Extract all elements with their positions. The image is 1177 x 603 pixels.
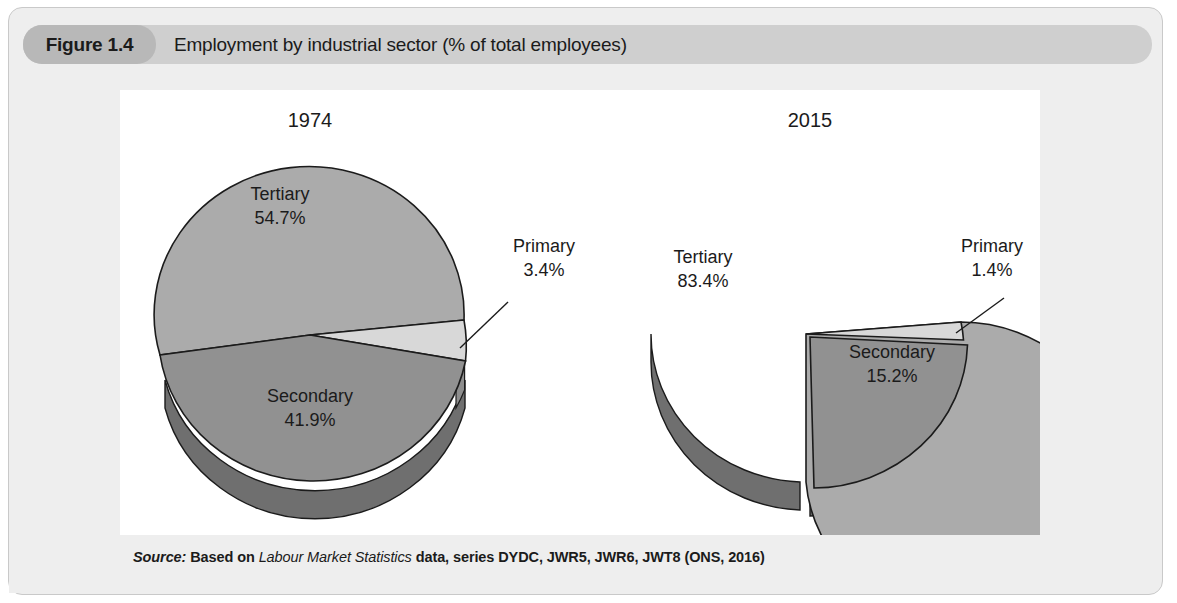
pie-1974-primary-name: Primary <box>513 236 575 256</box>
chart-plot-panel: 1974 Tertiary 54.7% Secondary 41.9% <box>120 90 1040 535</box>
source-italic-title: Labour Market Statistics <box>259 549 412 565</box>
pie-2015-tertiary-name: Tertiary <box>673 247 732 267</box>
figure-caption-bar: Figure 1.4 Employment by industrial sect… <box>23 25 1152 64</box>
pie-title-2015: 2015 <box>788 109 833 131</box>
pie-2015-primary-value: 1.4% <box>971 260 1012 280</box>
pie-1974-primary-leader-line <box>460 302 508 348</box>
pie-1974-tertiary-name: Tertiary <box>250 184 309 204</box>
figure-caption-text: Employment by industrial sector (% of to… <box>174 25 627 64</box>
pie-1974-secondary-value: 41.9% <box>284 410 335 430</box>
pie-1974-primary-value: 3.4% <box>523 260 564 280</box>
source-text-1: Based on <box>186 549 258 565</box>
figure-number-tag: Figure 1.4 <box>23 25 156 64</box>
pie-1974-secondary-name: Secondary <box>267 386 353 406</box>
pie-charts-svg: 1974 Tertiary 54.7% Secondary 41.9% <box>120 90 1040 535</box>
pie-2015-tertiary-value: 83.4% <box>677 271 728 291</box>
pie-chart-2015: 2015 Tertiary 83.4% Secondary 15.2% <box>651 109 1040 535</box>
pie-chart-1974: 1974 Tertiary 54.7% Secondary 41.9% <box>154 109 575 519</box>
pie-2015-tertiary-side <box>651 334 800 510</box>
pie-2015-primary-name: Primary <box>961 236 1023 256</box>
pie-title-1974: 1974 <box>288 109 333 131</box>
figure-root: Figure 1.4 Employment by industrial sect… <box>0 0 1177 603</box>
pie-1974-tertiary-value: 54.7% <box>254 208 305 228</box>
source-text-2: data, series DYDC, JWR5, JWR6, JWT8 (ONS… <box>412 549 765 565</box>
figure-source-note: Source: Based on Labour Market Statistic… <box>133 549 765 565</box>
pie-2015-secondary-name: Secondary <box>849 342 935 362</box>
pie-2015-secondary-value: 15.2% <box>866 366 917 386</box>
source-label: Source: <box>133 549 186 565</box>
